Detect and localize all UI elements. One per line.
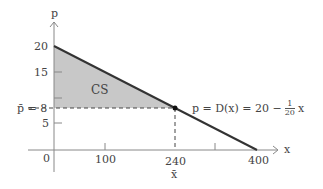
x-tick-label-240: 240 [165, 156, 186, 167]
equilibrium-point [173, 106, 178, 111]
y-tick-label-15: 15 [34, 67, 48, 78]
x-tick-label-0: 0 [43, 153, 50, 164]
x-tick-label-400: 400 [248, 155, 269, 166]
equation-left: p = D(x) = 20 − [192, 103, 282, 114]
x-axis-label: x [284, 144, 290, 155]
y-tick-label-5: 5 [42, 118, 49, 129]
equation-right: x [298, 103, 304, 114]
demand-equation: p = D(x) = 20 − 1 20 x [192, 100, 304, 117]
x-tick-label-100: 100 [95, 154, 116, 165]
y-axis-label: p [51, 8, 58, 19]
y-tick-label-pbar: p̄ = 8 [17, 103, 47, 114]
cs-label: CS [91, 84, 108, 96]
fraction-denominator: 20 [285, 109, 295, 117]
equation-fraction: 1 20 [285, 100, 295, 117]
x-bar-label: x̄ [171, 169, 177, 180]
y-tick-label-20: 20 [34, 41, 48, 52]
